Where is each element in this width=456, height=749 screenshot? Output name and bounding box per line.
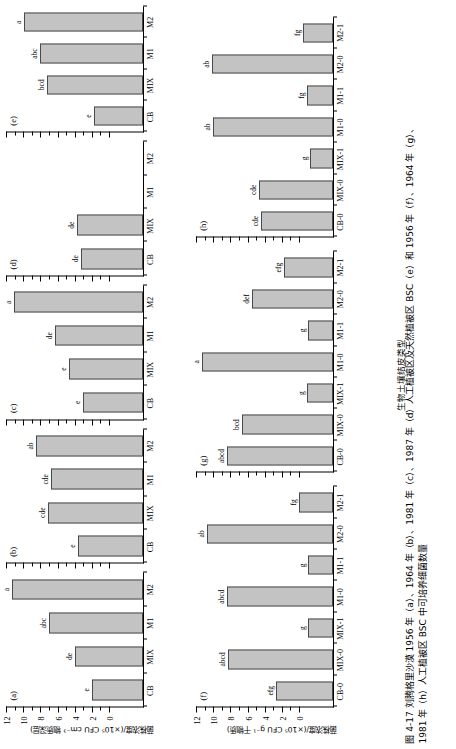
bar-group: abcd <box>196 446 333 465</box>
bar <box>307 383 333 402</box>
bar-group: e <box>6 358 143 379</box>
x-tick-label: CB-0 <box>336 206 345 238</box>
significance-label: ab <box>198 530 206 537</box>
x-tick-label: MIX <box>146 640 155 674</box>
y-tick-label: 12 <box>3 716 12 724</box>
significance-label: bcd <box>233 419 241 430</box>
panel-row-top: 0 2 4 6 8 10 12 <box>6 6 178 707</box>
bar-group: def <box>196 289 333 308</box>
panel-c-plot: eedea (c) <box>6 285 144 420</box>
significance-label: ab <box>203 60 211 67</box>
panel-d-plot: dede (d) <box>6 141 144 276</box>
x-tick-label: MIX-0 <box>336 174 345 206</box>
x-tick-label: MIX-1 <box>336 143 345 175</box>
panel-b: ecdecdeab (b) CBMIXM1M2 <box>6 429 178 564</box>
panel-h-tag: (h) <box>198 220 208 230</box>
bar <box>48 502 143 523</box>
panel-f: 0 2 4 6 8 10 12 <box>196 486 368 707</box>
bar-group <box>6 181 143 202</box>
bar-group: cde <box>196 180 333 199</box>
y-tick-label: 6 <box>244 716 253 720</box>
bar <box>308 618 333 637</box>
significance-label: ab <box>204 123 212 130</box>
bar-group: cde <box>6 502 143 523</box>
panel-f-plot: 0 2 4 6 8 10 12 <box>196 486 334 707</box>
significance-label: de <box>68 221 76 228</box>
y-tick-label: 10 <box>20 716 29 724</box>
bar-group: ab <box>196 117 333 136</box>
x-tick-label: M2-1 <box>336 251 345 283</box>
x-tick-label: MIX <box>146 209 155 243</box>
significance-label: abcd <box>218 448 226 462</box>
significance-label: g <box>299 626 307 630</box>
bar-group: de <box>6 248 143 269</box>
significance-label: a <box>5 300 13 303</box>
bar <box>276 681 333 700</box>
bar-group: cde <box>196 211 333 230</box>
bar <box>40 43 143 62</box>
significance-label: cde <box>252 215 260 225</box>
x-tick-label: M1-1 <box>336 315 345 347</box>
x-tick-label: CB-0 <box>336 675 345 707</box>
x-tick-label: M1-1 <box>336 80 345 112</box>
panel-c-bars: eedea <box>6 285 143 419</box>
x-tick-label: CB <box>146 673 155 707</box>
bar <box>227 446 333 465</box>
bar <box>81 248 143 269</box>
panel-h-plot: cdecdegabfgabfg (h) <box>196 17 334 238</box>
significance-label: efg <box>267 686 275 696</box>
panel-d: dede (d) CBMIXM1M2 <box>6 141 178 276</box>
significance-label: a <box>193 360 201 363</box>
panel-g-x-labels: CB-0MIX-0MIX-1M1-0M1-1M2-0M2-1 <box>336 251 352 472</box>
bar <box>24 12 143 31</box>
bar-group: cde <box>6 468 143 489</box>
y-tick-label: 12 <box>193 716 202 724</box>
bar-group: de <box>6 646 143 667</box>
panel-b-bars: ecdecdeab <box>6 429 143 563</box>
bar <box>310 148 333 167</box>
panel-f-bars: efgabcdgabcdgabfg <box>196 486 333 706</box>
bar-group: ab <box>196 54 333 73</box>
y-tick-label: 6 <box>54 716 63 720</box>
bar <box>14 291 143 312</box>
significance-label: de <box>46 332 54 339</box>
y-tick-label: 2 <box>278 716 287 720</box>
significance-label: g <box>299 328 307 332</box>
significance-label: e <box>83 688 91 691</box>
significance-label: fg <box>294 29 302 35</box>
panel-c-tag: (c) <box>8 403 18 412</box>
bar-group: fg <box>196 85 333 104</box>
bar <box>55 325 143 346</box>
y-axis-title-top: 菌株浓度/(×10⁵ CFU cm⁻³ 物质深层) <box>6 724 178 735</box>
x-tick-label: MIX-1 <box>336 378 345 410</box>
bar <box>242 414 333 433</box>
panel-f-x-labels: CB-0MIX-0MIX-1M1-0M1-1M2-0M2-1 <box>336 486 352 707</box>
bar-group: g <box>196 555 333 574</box>
significance-label: abcd <box>219 652 227 666</box>
bar-group: g <box>196 148 333 167</box>
significance-label: g <box>298 391 306 395</box>
x-tick-label: M1 <box>146 606 155 640</box>
bar-group <box>6 148 143 169</box>
x-tick-label: M2 <box>146 141 155 175</box>
bar-group: bcd <box>196 414 333 433</box>
x-tick-label: M2 <box>146 285 155 319</box>
x-tick-label: M2-1 <box>336 17 345 49</box>
panel-g-tag: (g) <box>198 455 208 465</box>
panel-f-tag: (f) <box>198 692 208 701</box>
figure-caption: 图 4-17 刘腾格里沙漠 1956 年（a）、1964 年（b）、1981 年… <box>404 6 430 743</box>
panel-b-x-labels: CBMIXM1M2 <box>146 429 162 564</box>
bar-group: bcd <box>6 75 143 94</box>
y-tick-label: 0 <box>106 716 115 720</box>
panel-d-tag: (d) <box>8 259 18 269</box>
x-tick-label: CB <box>146 386 155 420</box>
bar <box>227 586 333 605</box>
significance-label: cde <box>42 474 50 484</box>
panel-h-bars: cdecdegabfgabfg <box>196 17 333 237</box>
significance-label: fg <box>290 499 298 505</box>
significance-label: fg <box>298 92 306 98</box>
bar <box>12 579 143 600</box>
x-tick-label: M1-0 <box>336 111 345 143</box>
y-tick-label: 8 <box>227 716 236 720</box>
bar <box>47 75 143 94</box>
